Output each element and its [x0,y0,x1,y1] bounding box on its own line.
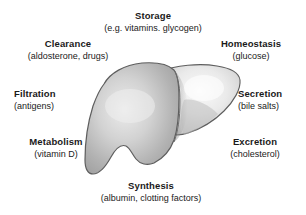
label-secretion-title: Secretion [238,89,306,100]
label-filtration-title: Filtration [14,89,94,100]
label-storage-subtitle: (e.g. vitamins. glycogen) [95,23,211,33]
label-storage-title: Storage [95,11,211,22]
liver-functions-diagram: Storage (e.g. vitamins. glycogen) Cleara… [0,0,306,215]
label-secretion: Secretion (bile salts) [238,89,306,111]
label-synthesis-subtitle: (albumin, clotting factors) [78,193,224,203]
label-homeostasis-title: Homeostasis [203,39,299,50]
liver-right-highlight [184,75,224,101]
liver-left-highlight [105,89,155,123]
label-storage: Storage (e.g. vitamins. glycogen) [95,11,211,33]
label-synthesis: Synthesis (albumin, clotting factors) [78,181,224,203]
label-clearance-title: Clearance [17,39,119,50]
liver-illustration [84,56,242,184]
label-filtration-subtitle: (antigens) [14,101,94,111]
label-filtration: Filtration (antigens) [14,89,94,111]
label-secretion-subtitle: (bile salts) [238,101,306,111]
